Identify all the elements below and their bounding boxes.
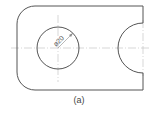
diameter-dimension-text: ø20 [52, 34, 66, 48]
drawing-canvas: ø20 (a) [0, 0, 158, 113]
figure-caption: (a) [74, 95, 85, 105]
